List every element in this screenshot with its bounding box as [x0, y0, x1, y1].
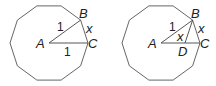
right-label-ab-length: 1: [169, 20, 176, 34]
left-segment-ab: [49, 20, 81, 43]
right-figure: A B C D x x 1: [122, 6, 210, 80]
right-label-x-side: x: [197, 21, 205, 36]
decagon-diagrams: A B C x 1 1 A B C D x x 1: [0, 0, 216, 86]
right-label-c: C: [200, 36, 210, 51]
right-label-x-inner: x: [176, 29, 184, 44]
right-label-d: D: [178, 44, 187, 59]
left-label-a: A: [35, 36, 45, 51]
left-figure: A B C x 1 1: [10, 6, 98, 80]
left-label-ab-length: 1: [57, 20, 64, 34]
left-label-x: x: [85, 21, 93, 36]
left-label-b: B: [79, 6, 88, 21]
right-segment-bd: [185, 20, 193, 43]
right-label-a: A: [147, 36, 157, 51]
left-label-c: C: [88, 36, 98, 51]
right-label-b: B: [191, 6, 200, 21]
left-label-ac-length: 1: [64, 45, 71, 59]
